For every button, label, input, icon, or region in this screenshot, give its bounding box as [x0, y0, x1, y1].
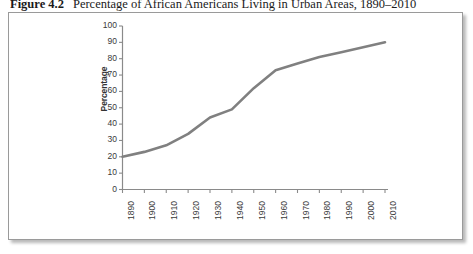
- plot-area: [0, 0, 473, 254]
- data-series-line: [123, 42, 386, 156]
- line-chart: Percentage 1009080706050403020100 189019…: [0, 0, 473, 254]
